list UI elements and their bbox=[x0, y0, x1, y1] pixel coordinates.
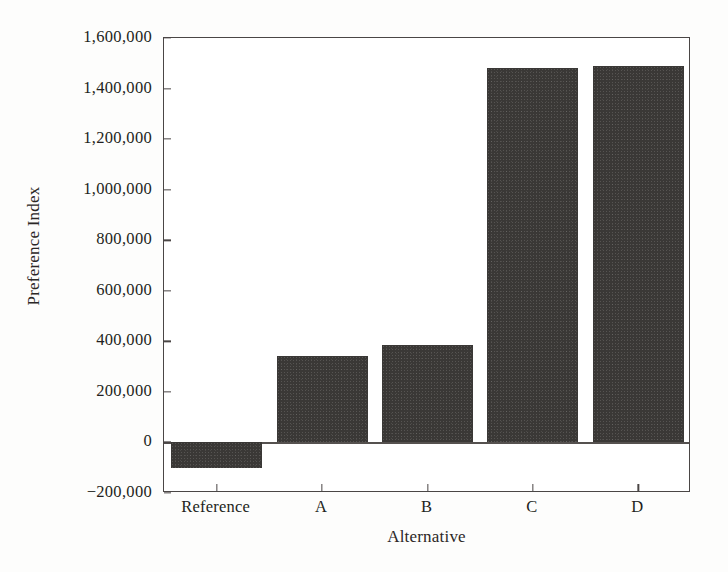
x-tick-label: C bbox=[526, 497, 537, 517]
x-tick-label: Reference bbox=[181, 497, 250, 517]
x-axis-title: Alternative bbox=[163, 527, 690, 547]
x-tick-label: D bbox=[631, 497, 643, 517]
x-axis-tick-labels: ReferenceABCD bbox=[0, 0, 728, 572]
x-tick-label: B bbox=[421, 497, 432, 517]
x-tick-label: A bbox=[315, 497, 327, 517]
bar-chart-figure: Preference Index 1,600,0001,400,0001,200… bbox=[0, 0, 728, 572]
